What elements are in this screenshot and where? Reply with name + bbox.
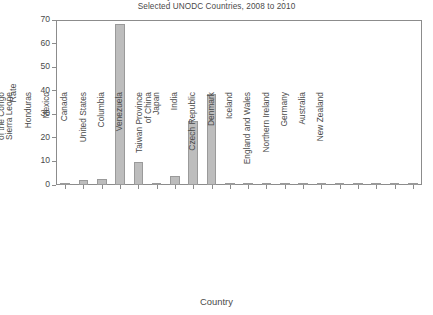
x-tick-label-line: Mexico [42, 92, 51, 192]
bar-slot [390, 20, 400, 185]
x-tick-label: United States [79, 92, 88, 192]
bar-slot [335, 20, 345, 185]
x-tick-label: Denmark [207, 92, 216, 192]
x-axis-title: Country [0, 296, 433, 307]
x-tick-mark [376, 185, 377, 189]
x-tick-label-line: Canada [60, 92, 69, 192]
y-tick-label: 70 [40, 14, 50, 25]
chart-title: Homicides by Firearm Rate per 100,000 Po… [0, 0, 433, 12]
x-tick-label: Northern Ireland [262, 92, 271, 192]
x-tick-label: Australia [298, 92, 307, 192]
chart-title-line-2: Selected UNODC Countries, 2008 to 2010 [0, 2, 433, 12]
x-tick-label: Columbia [97, 92, 106, 192]
x-tick-label-line: Iceland [225, 92, 234, 192]
x-tick-label-line: Czech Republic [188, 92, 197, 192]
x-tick-label-line: Australia [298, 92, 307, 192]
x-tick-label-line: Honduras [24, 92, 33, 192]
y-tick-label: 60 [40, 38, 50, 49]
x-tick-label: Canada [60, 92, 69, 192]
x-tick-label-line: England and Wales [243, 92, 252, 192]
bar-slot [353, 20, 363, 185]
x-tick-mark [358, 185, 359, 189]
x-tick-label: Czech Republic [188, 92, 197, 192]
x-tick-label: Iceland [225, 92, 234, 192]
x-tick-label-line: Denmark [207, 92, 216, 192]
x-tick-label-line: Columbia [97, 92, 106, 192]
x-tick-label-line: India [170, 92, 179, 192]
bar-slot [408, 20, 418, 185]
x-tick-label-line: United States [79, 92, 88, 192]
x-tick-label: Sierra Leone [5, 92, 14, 192]
bar-slot [371, 20, 381, 185]
x-tick-label: England and Wales [243, 92, 252, 192]
x-tick-label: Mexico [42, 92, 51, 192]
x-tick-mark [413, 185, 414, 189]
x-tick-mark [340, 185, 341, 189]
x-tick-label-line: Northern Ireland [262, 92, 271, 192]
x-tick-label: India [170, 92, 179, 192]
x-tick-label: Germany [280, 92, 289, 192]
x-tick-mark [395, 185, 396, 189]
x-tick-label-line: Sierra Leone [5, 92, 14, 192]
x-tick-label-line: Venezuela [115, 92, 124, 192]
bars-layer [56, 20, 422, 185]
x-tick-label-line: New Zealand [316, 92, 325, 192]
x-tick-label-line: Japan [152, 92, 161, 192]
bar-chart: Homicides by Firearm Rate per 100,000 Po… [0, 0, 433, 315]
x-tick-label: Japan [152, 92, 161, 192]
x-tick-label: Honduras [24, 92, 33, 192]
x-tick-label-line: Germany [280, 92, 289, 192]
x-tick-label: Venezuela [115, 92, 124, 192]
x-tick-label: New Zealand [316, 92, 325, 192]
y-tick-label: 50 [40, 61, 50, 72]
